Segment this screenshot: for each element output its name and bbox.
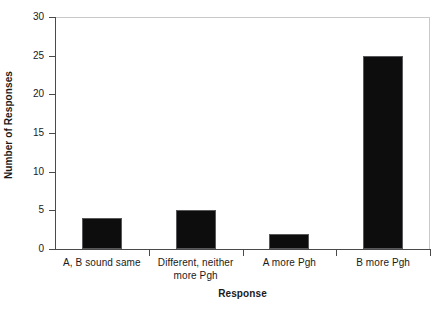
y-tick-mark xyxy=(49,249,55,250)
x-label-line: B more Pgh xyxy=(336,256,430,269)
y-tick-label-wrap: 25 xyxy=(0,51,44,62)
x-axis-labels: A, B sound sameDifferent, neithermore Pg… xyxy=(55,256,430,286)
y-tick-label-wrap: 5 xyxy=(0,205,44,216)
x-category-label: Different, neithermore Pgh xyxy=(149,256,243,282)
x-label-line: A more Pgh xyxy=(243,256,337,269)
y-tick-label: 30 xyxy=(0,12,44,22)
bar xyxy=(176,210,216,249)
y-tick-label: 5 xyxy=(0,205,44,215)
y-tick-label: 25 xyxy=(0,51,44,61)
bar xyxy=(363,56,403,249)
x-tick-mark xyxy=(430,250,431,256)
bars-layer xyxy=(55,17,430,249)
y-tick-label-wrap: 0 xyxy=(0,244,44,255)
x-label-line: A, B sound same xyxy=(55,256,149,269)
x-category-label: B more Pgh xyxy=(336,256,430,269)
y-tick-label: 10 xyxy=(0,167,44,177)
x-category-label: A, B sound same xyxy=(55,256,149,269)
x-label-line: more Pgh xyxy=(149,269,243,282)
y-tick-label-wrap: 30 xyxy=(0,12,44,23)
bar-chart: Number of Responses 051015202530 A, B so… xyxy=(0,0,443,313)
y-tick-label: 0 xyxy=(0,244,44,254)
y-tick-label: 20 xyxy=(0,89,44,99)
bar xyxy=(269,234,309,249)
bar xyxy=(82,218,122,249)
x-axis-title: Response xyxy=(55,288,430,299)
x-label-line: Different, neither xyxy=(149,256,243,269)
y-tick-label-wrap: 20 xyxy=(0,89,44,100)
y-tick-label-wrap: 15 xyxy=(0,128,44,139)
y-tick-label: 15 xyxy=(0,128,44,138)
x-category-label: A more Pgh xyxy=(243,256,337,269)
y-tick-label-wrap: 10 xyxy=(0,167,44,178)
